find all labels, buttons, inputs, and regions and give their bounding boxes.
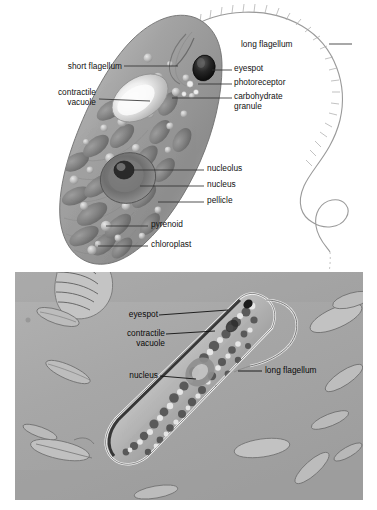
label-photo-nucleus: nucleus xyxy=(70,371,158,381)
label-photo-contractile-vacuole: contractile vacuole xyxy=(70,329,165,348)
label-pyrenoid: pyrenoid xyxy=(151,220,183,230)
label-photo-long-flagellum: long flagellum xyxy=(265,366,316,376)
label-short-flagellum: short flagellum xyxy=(24,62,122,72)
figure-canvas xyxy=(0,0,377,510)
label-contractile-vacuole: contractile vacuole xyxy=(14,88,96,107)
label-long-flagellum: long flagellum xyxy=(241,40,292,50)
label-photo-eyespot: eyespot xyxy=(70,310,158,320)
label-eyespot: eyespot xyxy=(234,64,263,74)
label-nucleolus: nucleolus xyxy=(207,164,242,174)
cell-body xyxy=(59,15,222,264)
euglena-figure: short flagellum contractile vacuole long… xyxy=(0,0,377,510)
label-pellicle: pellicle xyxy=(207,196,233,206)
photomicrograph-group xyxy=(15,250,373,502)
label-carbohydrate-granule: carbohydrate granule xyxy=(234,92,283,111)
label-nucleus: nucleus xyxy=(207,180,236,190)
illustration-group xyxy=(59,4,352,282)
label-photoreceptor: photoreceptor xyxy=(234,78,285,88)
label-chloroplast: chloroplast xyxy=(151,240,191,250)
nucleolus-shape xyxy=(114,161,134,179)
